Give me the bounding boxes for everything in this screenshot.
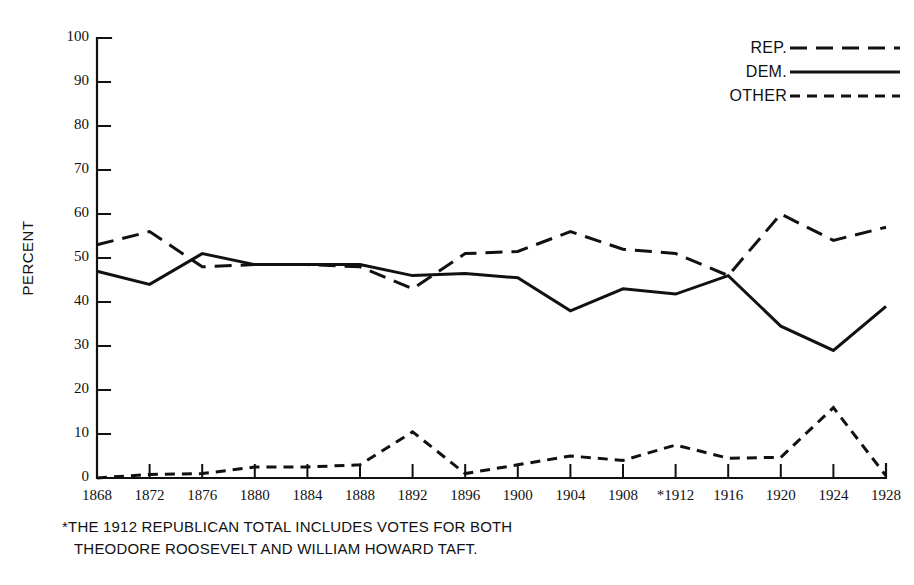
y-axis-title: PERCENT — [19, 220, 36, 295]
line-chart: 0102030405060708090100 18681872187618801… — [0, 0, 914, 585]
y-tick-label: 30 — [74, 336, 89, 352]
footnote-line-1: *THE 1912 REPUBLICAN TOTAL INCLUDES VOTE… — [62, 518, 512, 535]
x-tick-label: 1908 — [608, 487, 638, 503]
y-tick-label: 10 — [74, 424, 89, 440]
y-tick-label: 20 — [74, 380, 89, 396]
y-axis-tick-labels: 0102030405060708090100 — [67, 28, 90, 484]
x-tick-label: 1900 — [503, 487, 533, 503]
footnote-line-2: THEODORE ROOSEVELT AND WILLIAM HOWARD TA… — [74, 540, 478, 557]
y-tick-label: 0 — [82, 468, 90, 484]
x-tick-label: 1868 — [82, 487, 112, 503]
legend-label-dem: DEM. — [746, 63, 787, 80]
y-tick-label: 100 — [67, 28, 90, 44]
y-tick-label: 50 — [74, 248, 89, 264]
x-tick-label: 1872 — [135, 487, 165, 503]
data-series-group — [97, 214, 886, 478]
x-tick-label: 1924 — [818, 487, 849, 503]
series-line-rep — [97, 214, 886, 289]
x-axis-ticks — [97, 464, 886, 478]
x-tick-label: 1892 — [398, 487, 428, 503]
x-tick-label: 1928 — [871, 487, 901, 503]
axis-frame — [97, 38, 886, 478]
y-tick-label: 40 — [74, 292, 89, 308]
y-tick-label: 80 — [74, 116, 89, 132]
x-tick-label: 1896 — [450, 487, 481, 503]
series-line-other — [97, 408, 886, 478]
y-tick-label: 70 — [74, 160, 89, 176]
legend-label-other: OTHER — [730, 87, 788, 104]
y-tick-label: 60 — [74, 204, 89, 220]
x-tick-label: 1880 — [240, 487, 270, 503]
x-tick-label: 1916 — [713, 487, 744, 503]
y-tick-label: 90 — [74, 72, 89, 88]
x-tick-label: 1920 — [766, 487, 796, 503]
x-tick-label: 1888 — [345, 487, 375, 503]
y-axis-ticks — [97, 38, 111, 478]
legend-label-rep: REP. — [751, 39, 787, 56]
series-line-dem — [97, 254, 886, 351]
x-axis-tick-labels: 1868187218761880188418881892189619001904… — [82, 487, 901, 503]
x-tick-label: 1876 — [187, 487, 218, 503]
x-tick-label: *1912 — [657, 487, 695, 503]
x-tick-label: 1884 — [292, 487, 323, 503]
chart-legend: REP.DEM.OTHER — [730, 39, 901, 104]
chart-container: 0102030405060708090100 18681872187618801… — [0, 0, 914, 585]
x-tick-label: 1904 — [555, 487, 586, 503]
